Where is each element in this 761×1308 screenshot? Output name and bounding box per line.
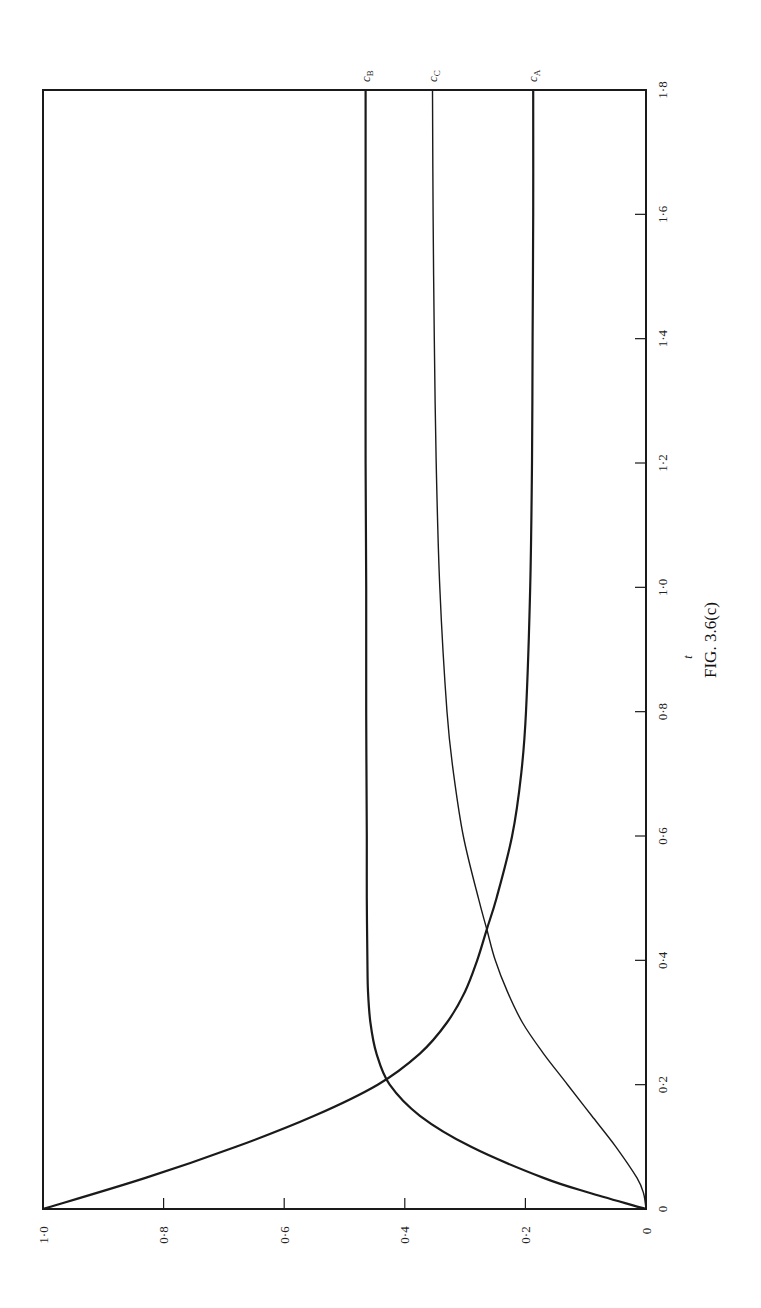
t-axis-tick-label: 1·0 xyxy=(655,579,670,596)
t-axis-tick-label: 1·2 xyxy=(655,454,670,471)
c-axis-tick-label: 0·4 xyxy=(397,1226,412,1244)
curve-c-a xyxy=(43,90,533,1209)
c-axis-tick-label: 0·6 xyxy=(277,1226,292,1244)
axis-ticks: 00·20·40·60·81·01·21·41·61·800·20·40·60·… xyxy=(36,81,670,1243)
curve-label-c-a: cA xyxy=(525,69,542,82)
curve-c-c xyxy=(433,90,647,1209)
t-axis-tick-label: 0 xyxy=(655,1206,670,1213)
curve-c-b xyxy=(366,90,646,1209)
t-axis-tick-label: 1·6 xyxy=(655,205,670,223)
t-axis-tick-label: 1·4 xyxy=(655,330,670,348)
c-axis-tick-label: 0·2 xyxy=(518,1226,533,1243)
plot-border xyxy=(43,90,646,1209)
t-axis-tick-label: 0·2 xyxy=(655,1076,670,1093)
c-axis-tick-label: 0·8 xyxy=(156,1226,171,1243)
x-axis-label: t xyxy=(681,655,695,659)
t-axis-tick-label: 0·6 xyxy=(655,827,670,845)
curve-label-c-b: cB xyxy=(358,70,375,82)
figure-caption: FIG. 3.6(c) xyxy=(701,602,720,678)
c-axis-tick-label: 0 xyxy=(639,1228,654,1235)
curve-label-c-c: cC xyxy=(425,70,442,82)
chart-canvas: 00·20·40·60·81·01·21·41·61·800·20·40·60·… xyxy=(0,0,761,1308)
curve-labels: cAcBcC xyxy=(358,69,543,82)
t-axis-tick-label: 1·8 xyxy=(655,81,670,98)
figure-caption-group: FIG. 3.6(c) xyxy=(701,602,720,678)
plot-frame xyxy=(43,90,646,1209)
t-axis-tick-label: 0·4 xyxy=(655,951,670,969)
c-axis-tick-label: 1·0 xyxy=(36,1226,51,1243)
t-axis-tick-label: 0·8 xyxy=(655,703,670,720)
t-axis-label: t xyxy=(681,655,695,659)
data-curves xyxy=(43,90,646,1209)
